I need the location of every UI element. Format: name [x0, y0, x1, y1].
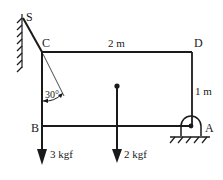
pin-dot	[189, 124, 194, 129]
label-right-height: 1 m	[195, 85, 212, 97]
label-s: S	[26, 10, 33, 24]
label-top-length: 2 m	[108, 37, 125, 49]
arrow-3kgf	[37, 149, 47, 165]
label-force-3kgf: 3 kgf	[50, 148, 73, 160]
label-angle: 30°	[45, 89, 59, 100]
label-force-2kgf: 2 kgf	[124, 148, 147, 160]
label-a: A	[205, 121, 214, 135]
arrow-2kgf	[112, 149, 122, 163]
label-c: C	[42, 36, 50, 50]
wall-hatching	[17, 14, 22, 72]
label-d: D	[194, 36, 203, 50]
ground-hatching	[170, 137, 207, 143]
statics-diagram: S C D B A 2 m 1 m 30° 3 kgf 2 kgf	[0, 0, 223, 180]
label-b: B	[31, 121, 39, 135]
